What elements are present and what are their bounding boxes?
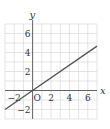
x-tick-label: −2 xyxy=(8,93,21,103)
x-tick-label: 2 xyxy=(48,93,54,103)
y-tick-label: 2 xyxy=(25,67,31,77)
y-tick-label: −2 xyxy=(17,105,30,115)
y-tick-label: 6 xyxy=(25,29,31,39)
origin-label: O xyxy=(34,93,41,103)
x-tick-label: 6 xyxy=(85,93,91,103)
x-axis-label: x xyxy=(100,85,106,96)
x-tick-label: 4 xyxy=(67,93,73,103)
y-axis-label: y xyxy=(29,9,36,20)
y-tick-label: 4 xyxy=(25,48,31,58)
line-graph: xy−2246642−2O xyxy=(0,0,110,129)
